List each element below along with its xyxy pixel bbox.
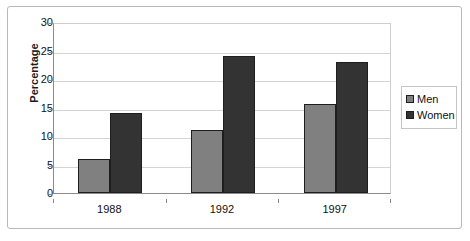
bar-women-1988: [110, 113, 142, 193]
y-axis-tick-label: 25: [19, 46, 53, 57]
legend-item-women[interactable]: Women: [406, 107, 453, 123]
y-axis-tick-label: 20: [19, 74, 53, 85]
gridline: [54, 53, 390, 54]
bar-men-1988: [78, 159, 110, 193]
y-axis-tick-mark: [49, 194, 53, 195]
x-axis-tick-mark: [390, 199, 391, 203]
x-axis-tick-label: 1992: [192, 203, 252, 215]
chart-frame: Percentage 051015202530 198819921997 Men…: [7, 6, 462, 229]
chart-legend: MenWomen: [401, 86, 457, 129]
y-axis-tick-labels: 051015202530: [8, 23, 53, 194]
x-axis-tick-mark: [53, 199, 54, 203]
y-axis-tick-label: 0: [19, 188, 53, 199]
bar-women-1997: [336, 62, 368, 193]
legend-swatch-icon: [406, 95, 414, 103]
plot-area: [53, 23, 391, 194]
y-axis-tick-label: 30: [19, 17, 53, 28]
x-axis-tick-mark: [166, 199, 167, 203]
legend-label: Women: [417, 109, 455, 121]
bar-men-1992: [191, 130, 223, 193]
x-axis-tick-label: 1988: [79, 203, 139, 215]
x-axis-tick-labels: 198819921997: [53, 199, 391, 219]
y-axis-tick-label: 10: [19, 131, 53, 142]
y-axis-tick-label: 15: [19, 103, 53, 114]
legend-label: Men: [417, 93, 438, 105]
x-axis-tick-label: 1997: [305, 203, 365, 215]
bar-women-1992: [223, 56, 255, 193]
legend-swatch-icon: [406, 111, 414, 119]
legend-item-men[interactable]: Men: [406, 91, 453, 107]
y-axis-tick-label: 5: [19, 160, 53, 171]
x-axis-tick-mark: [278, 199, 279, 203]
bar-men-1997: [304, 104, 336, 193]
